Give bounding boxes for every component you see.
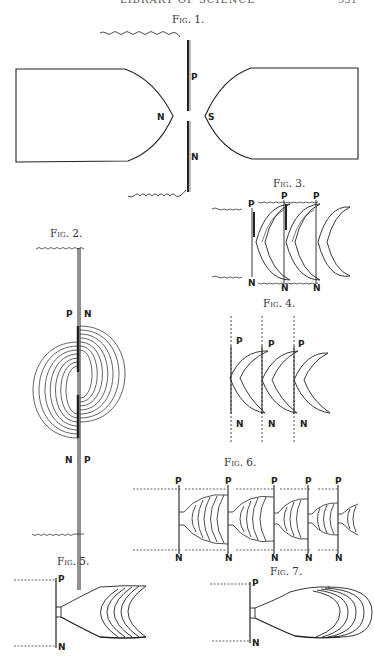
- fig1-diagram: [16, 32, 358, 198]
- fig1-label-n-plate: N: [191, 152, 199, 162]
- fig1-magnet-left: [16, 69, 173, 162]
- fig6-label-p4: P: [305, 476, 312, 486]
- fig6-label-n3: N: [271, 553, 279, 563]
- fig1-label-p-plate: P: [191, 72, 198, 82]
- fig7-label-n: N: [252, 638, 260, 648]
- fig5-label-p: P: [58, 574, 65, 584]
- fig3-diagram: [212, 200, 350, 284]
- fig6-label-p3: P: [271, 476, 278, 486]
- fig1-coil-top: [100, 32, 180, 38]
- fig7-label-p: P: [252, 578, 259, 588]
- fig3-label-n3: N: [313, 283, 321, 293]
- fig4-label-p2: P: [268, 339, 275, 349]
- fig3-label-p1: P: [248, 199, 255, 209]
- fig6-label-p5: P: [335, 476, 342, 486]
- fig3-label-n2: N: [281, 283, 289, 293]
- fig1-coil-bottom: [128, 190, 186, 197]
- fig6-label-n2: N: [225, 553, 233, 563]
- fig3-label-p2: P: [281, 191, 288, 201]
- fig6-label-p2: P: [225, 476, 232, 486]
- fig3-label-n1: N: [248, 278, 256, 288]
- fig4-label-p1: P: [236, 336, 243, 346]
- fig4-label-n1: N: [236, 419, 244, 429]
- fig6-label-p1: P: [175, 476, 182, 486]
- fig3-label-p3: P: [313, 191, 320, 201]
- fig1-label-n-magnet: N: [157, 112, 165, 122]
- fig2-label-lower-p: P: [84, 455, 91, 465]
- fig4-diagram: [230, 316, 330, 443]
- fig7-diagram: [210, 582, 372, 643]
- fig4-label-p3: P: [298, 339, 305, 349]
- fig2-label-upper-p: P: [66, 309, 73, 319]
- fig6-label-n1: N: [175, 553, 183, 563]
- fig2-diagram: [32, 248, 125, 591]
- fig6-label-n5: N: [335, 553, 343, 563]
- fig6-label-n4: N: [305, 553, 313, 563]
- fig1-label-s-magnet: S: [208, 112, 214, 122]
- fig5-label-n: N: [58, 642, 66, 652]
- fig2-label-lower-n: N: [65, 455, 73, 465]
- fig4-label-n3: N: [300, 419, 308, 429]
- figures-canvas: N S P N P P P N N N: [0, 0, 374, 660]
- fig1-magnet-right: [205, 68, 358, 159]
- fig2-label-upper-n: N: [84, 309, 92, 319]
- fig4-label-n2: N: [268, 419, 276, 429]
- fig6-diagram: [133, 485, 358, 554]
